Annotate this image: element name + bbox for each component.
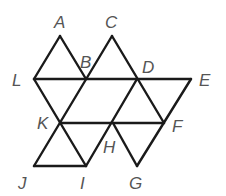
point-label-a: A: [53, 13, 65, 32]
point-label-j: J: [17, 174, 27, 193]
point-label-i: I: [80, 174, 85, 193]
point-label-h: H: [103, 138, 116, 157]
point-label-b: B: [80, 53, 91, 72]
point-label-l: L: [12, 71, 21, 90]
point-label-k: K: [37, 114, 49, 133]
point-label-f: F: [172, 117, 184, 136]
point-label-c: C: [105, 13, 118, 32]
triangle-grid-diagram: ACBDLEKFHJIG: [0, 0, 226, 196]
segment-HG: [113, 123, 137, 166]
point-label-g: G: [129, 174, 142, 193]
point-label-e: E: [199, 71, 211, 90]
segment-AL: [34, 36, 60, 79]
point-label-d: D: [142, 58, 154, 77]
